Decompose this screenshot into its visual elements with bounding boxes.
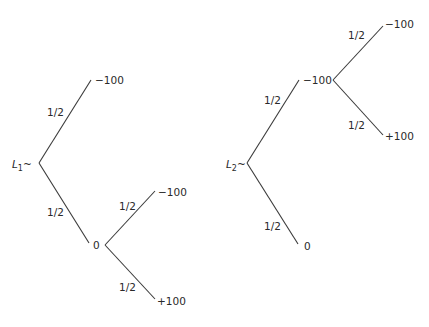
l2-upper-edge	[247, 80, 299, 163]
l2-upper-prob: 1/2	[264, 94, 281, 106]
lottery-tree-diagram: L1~ 1/2 −100 1/2 0 1/2 −100 1/2 +100 L2~…	[0, 0, 429, 327]
l2-chance-node-outcome: −100	[303, 74, 332, 86]
l1-sub-lower-outcome: +100	[157, 295, 186, 307]
l1-upper-prob: 1/2	[47, 106, 64, 118]
l2-sub-upper-outcome: −100	[385, 18, 414, 30]
l1-lower-prob: 1/2	[47, 206, 64, 218]
l1-chance-node-outcome: 0	[93, 239, 100, 251]
l2-sub-lower-outcome: +100	[385, 130, 414, 142]
l1-sub-upper-outcome: −100	[158, 186, 187, 198]
l2-lower-prob: 1/2	[264, 220, 281, 232]
l1-upper-edge	[39, 80, 91, 163]
l1-sub-lower-prob: 1/2	[119, 281, 136, 293]
l2-lower-outcome: 0	[304, 240, 311, 252]
lottery-1-label: L1~	[12, 158, 32, 173]
lottery-1-tree: L1~ 1/2 −100 1/2 0 1/2 −100 1/2 +100	[12, 74, 187, 307]
lottery-2-tree: L2~ 1/2 −100 1/2 −100 1/2 +100 1/2 0	[226, 18, 414, 252]
l1-sub-upper-prob: 1/2	[119, 200, 136, 212]
lottery-2-label: L2~	[226, 158, 246, 173]
l1-upper-outcome: −100	[95, 74, 124, 86]
l2-sub-lower-prob: 1/2	[348, 119, 365, 131]
l2-sub-upper-prob: 1/2	[348, 29, 365, 41]
l1-lower-edge	[39, 163, 89, 243]
